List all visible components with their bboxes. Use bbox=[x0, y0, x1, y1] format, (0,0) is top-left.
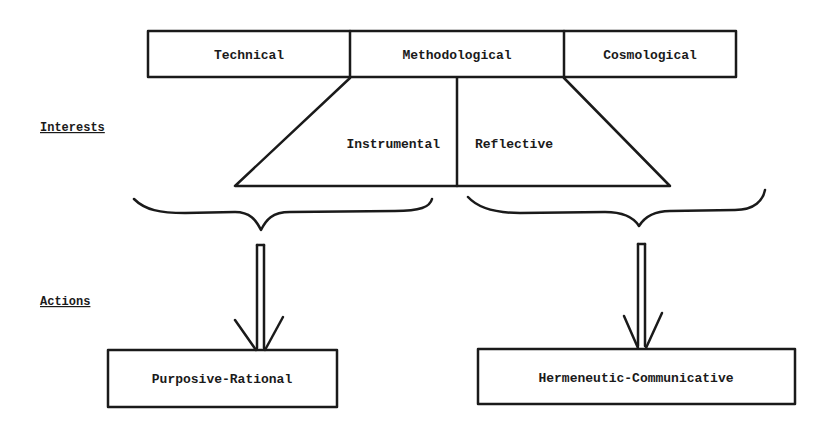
purposive-rational-label: Purposive-Rational bbox=[152, 372, 293, 387]
right-brace bbox=[468, 190, 765, 226]
interests-label: Interests bbox=[40, 121, 105, 135]
hermeneutic-communicative-label: Hermeneutic-Communicative bbox=[538, 371, 733, 386]
cell-technical: Technical bbox=[214, 48, 284, 63]
hermeneutic-communicative-box: Hermeneutic-Communicative bbox=[478, 349, 795, 404]
instrumental-label: Instrumental bbox=[346, 137, 440, 152]
top-box: Technical Methodological Cosmological bbox=[148, 31, 736, 77]
purposive-rational-box: Purposive-Rational bbox=[108, 350, 337, 407]
right-arrow bbox=[624, 244, 662, 348]
interests-actions-diagram: Technical Methodological Cosmological In… bbox=[0, 0, 830, 438]
cell-methodological: Methodological bbox=[402, 48, 511, 63]
trapezoid-outline bbox=[235, 78, 670, 186]
left-arrow bbox=[235, 245, 283, 350]
left-brace bbox=[134, 199, 432, 230]
cell-cosmological: Cosmological bbox=[603, 48, 697, 63]
interests-trapezoid: Instrumental Reflective bbox=[235, 78, 670, 186]
reflective-label: Reflective bbox=[475, 137, 553, 152]
actions-label: Actions bbox=[40, 295, 90, 309]
